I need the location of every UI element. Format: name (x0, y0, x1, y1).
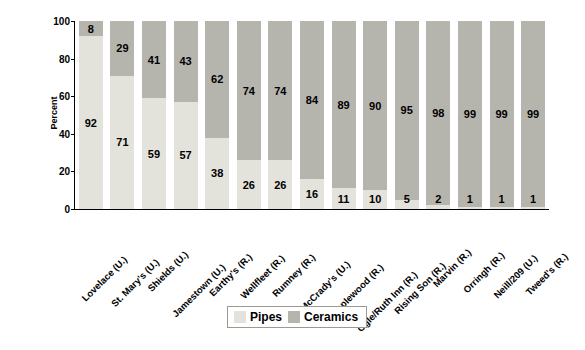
stacked-bar[interactable]: 8911 (332, 21, 356, 209)
bar-slot: 8911 (328, 21, 360, 209)
bar-segment-pipes: 92 (79, 36, 103, 209)
stacked-bar[interactable]: 7426 (237, 21, 261, 209)
bar-segment-ceramics: 89 (332, 21, 356, 188)
bar-value-pipes: 2 (435, 193, 441, 205)
bar-value-ceramics: 99 (527, 108, 539, 120)
bar-value-ceramics: 8 (88, 23, 94, 35)
bar-series-container: 8922971415943576238742674268416891190109… (75, 21, 549, 209)
bar-value-pipes: 10 (369, 193, 381, 205)
bar-value-ceramics: 89 (337, 99, 349, 111)
bar-segment-ceramics: 62 (205, 21, 229, 138)
bar-segment-ceramics: 95 (395, 21, 419, 200)
bar-slot: 9010 (359, 21, 391, 209)
bar-segment-pipes: 1 (458, 207, 482, 209)
stacked-bar[interactable]: 6238 (205, 21, 229, 209)
bar-segment-pipes: 71 (110, 76, 134, 209)
stacked-bar[interactable]: 991 (490, 21, 514, 209)
bar-segment-pipes: 26 (268, 160, 292, 209)
bar-value-ceramics: 74 (274, 85, 286, 97)
legend-swatch-pipes (234, 311, 246, 323)
y-axis-label: Percent (49, 73, 59, 153)
bar-segment-pipes: 38 (205, 138, 229, 209)
bar-segment-pipes: 1 (490, 207, 514, 209)
stacked-bar[interactable]: 4159 (142, 21, 166, 209)
bar-segment-pipes: 57 (174, 102, 198, 209)
bar-value-pipes: 59 (148, 148, 160, 160)
legend-label-ceramics: Ceramics (304, 310, 358, 324)
stacked-bar[interactable]: 991 (458, 21, 482, 209)
stacked-bar[interactable]: 7426 (268, 21, 292, 209)
bar-value-pipes: 38 (211, 167, 223, 179)
legend-label-pipes: Pipes (250, 310, 282, 324)
bar-segment-ceramics: 74 (237, 21, 261, 160)
stacked-bar[interactable]: 955 (395, 21, 419, 209)
bar-segment-ceramics: 98 (426, 21, 450, 205)
bar-value-ceramics: 95 (401, 104, 413, 116)
bar-value-pipes: 57 (179, 149, 191, 161)
bar-slot: 991 (486, 21, 518, 209)
bar-segment-ceramics: 99 (458, 21, 482, 207)
bar-segment-ceramics: 41 (142, 21, 166, 98)
bar-slot: 2971 (107, 21, 139, 209)
bar-slot: 6238 (201, 21, 233, 209)
legend-item-pipes: Pipes (234, 310, 282, 324)
bar-value-ceramics: 99 (495, 108, 507, 120)
stacked-bar[interactable]: 8416 (300, 21, 324, 209)
bar-value-pipes: 26 (243, 179, 255, 191)
bar-segment-pipes: 59 (142, 98, 166, 209)
bar-value-pipes: 26 (274, 179, 286, 191)
chart-legend: Pipes Ceramics (227, 306, 367, 328)
bar-value-ceramics: 84 (306, 94, 318, 106)
bar-value-ceramics: 43 (179, 55, 191, 67)
bar-value-pipes: 1 (530, 193, 536, 205)
y-tick-mark (71, 209, 75, 210)
bar-segment-pipes: 16 (300, 179, 324, 209)
bar-slot: 4159 (138, 21, 170, 209)
bar-value-pipes: 1 (467, 193, 473, 205)
bar-value-ceramics: 99 (464, 108, 476, 120)
bar-value-pipes: 16 (306, 188, 318, 200)
bar-segment-pipes: 26 (237, 160, 261, 209)
bar-segment-ceramics: 74 (268, 21, 292, 160)
plot-area: 020406080100 892297141594357623874267426… (74, 21, 549, 210)
bar-value-pipes: 11 (338, 193, 350, 205)
legend-item-ceramics: Ceramics (288, 310, 358, 324)
bar-value-ceramics: 98 (432, 107, 444, 119)
stacked-bar[interactable]: 982 (426, 21, 450, 209)
bar-slot: 7426 (233, 21, 265, 209)
bar-segment-pipes: 10 (363, 190, 387, 209)
bar-value-ceramics: 62 (211, 73, 223, 85)
bar-value-pipes: 5 (404, 193, 410, 205)
stacked-bar[interactable]: 4357 (174, 21, 198, 209)
chart-root: Percent 020406080100 8922971415943576238… (0, 0, 585, 350)
bar-value-ceramics: 90 (369, 100, 381, 112)
bar-segment-ceramics: 99 (521, 21, 545, 207)
x-axis-labels: Lovelace (U.)St. Mary's (U.)Shields (U.)… (74, 212, 548, 302)
stacked-bar[interactable]: 9010 (363, 21, 387, 209)
bar-value-ceramics: 29 (116, 42, 128, 54)
bar-slot: 982 (423, 21, 455, 209)
bar-segment-ceramics: 8 (79, 21, 103, 36)
bar-segment-pipes: 11 (332, 188, 356, 209)
bar-segment-ceramics: 43 (174, 21, 198, 102)
bar-segment-ceramics: 90 (363, 21, 387, 190)
bar-slot: 991 (454, 21, 486, 209)
bar-value-ceramics: 74 (243, 85, 255, 97)
bar-value-pipes: 1 (498, 193, 504, 205)
bar-value-ceramics: 41 (148, 54, 160, 66)
bar-slot: 4357 (170, 21, 202, 209)
bar-value-pipes: 71 (116, 136, 128, 148)
bar-segment-ceramics: 99 (490, 21, 514, 207)
stacked-bar[interactable]: 2971 (110, 21, 134, 209)
bar-slot: 892 (75, 21, 107, 209)
bar-slot: 991 (517, 21, 549, 209)
bar-segment-pipes: 1 (521, 207, 545, 209)
bar-segment-ceramics: 29 (110, 21, 134, 76)
stacked-bar[interactable]: 892 (79, 21, 103, 209)
stacked-bar[interactable]: 991 (521, 21, 545, 209)
bar-segment-pipes: 2 (426, 205, 450, 209)
bar-segment-ceramics: 84 (300, 21, 324, 179)
legend-swatch-ceramics (288, 311, 300, 323)
bar-value-pipes: 92 (85, 117, 97, 129)
bar-slot: 7426 (265, 21, 297, 209)
